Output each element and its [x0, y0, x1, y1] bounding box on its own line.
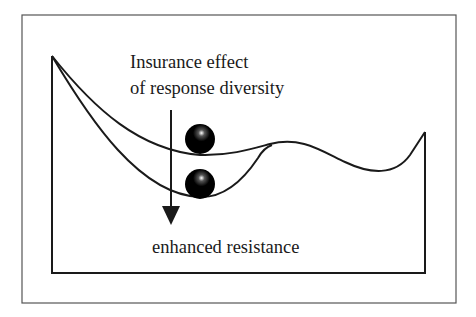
label-insurance-effect: Insurance effect [130, 52, 249, 72]
lower-ball [185, 169, 215, 199]
arrow-down-icon [162, 206, 180, 225]
resilience-diagram: Insurance effect of response diversity e… [0, 0, 476, 317]
label-enhanced-resistance: enhanced resistance [152, 237, 299, 257]
upper-landscape-curve [52, 56, 425, 171]
upper-ball [185, 124, 215, 154]
label-response-diversity: of response diversity [130, 78, 285, 98]
